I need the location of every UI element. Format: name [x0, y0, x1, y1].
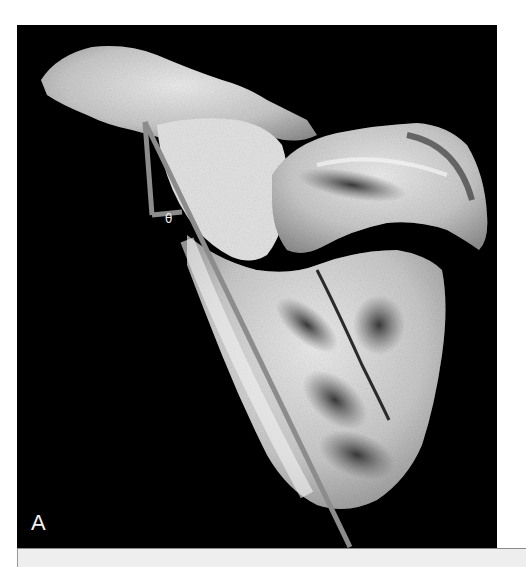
image-panel: θ A [17, 25, 497, 548]
scapula-render [17, 25, 497, 548]
panel-label: A [31, 510, 46, 536]
caption-bar [17, 548, 526, 567]
angle-theta-label: θ [165, 212, 172, 226]
